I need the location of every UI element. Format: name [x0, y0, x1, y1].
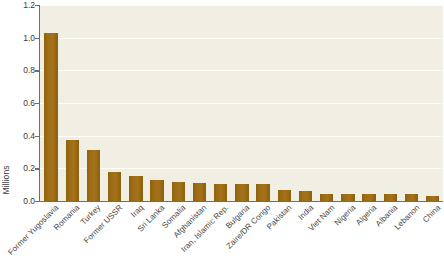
x-axis-tick-label: Former Yugoslavia [6, 203, 60, 257]
y-axis-tick-label: 0.8 [23, 65, 35, 75]
bar [129, 176, 142, 201]
y-axis-tick-label: 0.6 [23, 98, 35, 108]
plot-area [40, 5, 443, 201]
gridline [40, 103, 443, 104]
x-axis-tick-labels: Former YugoslaviaRomaniaTurkeyFormer USS… [40, 203, 443, 266]
y-axis-tick-mark [35, 168, 40, 169]
bar [87, 150, 100, 201]
y-axis-tick-label: 0.4 [23, 131, 35, 141]
bar-chart: Millions 0.00.20.40.60.81.01.2 Former Yu… [0, 0, 444, 266]
bar [362, 194, 375, 201]
bar [299, 191, 312, 201]
bar [341, 194, 354, 201]
gridline [40, 136, 443, 137]
gridline [40, 70, 443, 71]
x-axis-tick-label: Iraq [129, 203, 145, 219]
bar [150, 180, 163, 201]
gridline [40, 168, 443, 169]
y-axis-tick-label: 0.2 [23, 163, 35, 173]
bar [66, 140, 79, 201]
y-axis-tick-mark [35, 136, 40, 137]
bar [193, 183, 206, 201]
bar [44, 33, 57, 201]
bar [235, 184, 248, 201]
bar [108, 172, 121, 201]
x-axis-tick-label: Nigeria [333, 203, 358, 228]
bar [256, 184, 269, 201]
bar [214, 184, 227, 201]
bar [172, 182, 185, 201]
y-axis-tick-mark [35, 201, 40, 202]
y-axis-tick-mark [35, 38, 40, 39]
gridline [40, 5, 443, 6]
y-axis-tick-mark [35, 5, 40, 6]
x-axis-tick-label: China [421, 203, 442, 224]
y-axis-tick-label: 0.0 [23, 196, 35, 206]
y-axis-tick-mark [35, 70, 40, 71]
gridline [40, 38, 443, 39]
bar [278, 190, 291, 201]
bar [320, 194, 333, 201]
y-axis-tick-mark [35, 103, 40, 104]
y-axis-title-text: Millions [1, 165, 11, 194]
y-axis-tick-label: 1.2 [23, 0, 35, 10]
y-axis-title: Millions [0, 0, 12, 201]
y-axis-tick-label: 1.0 [23, 33, 35, 43]
